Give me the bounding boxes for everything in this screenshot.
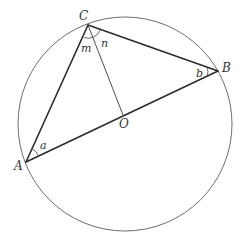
geometry-figure: C B A O a b m n <box>0 0 243 243</box>
angle-label-n: n <box>101 37 108 50</box>
angle-arc-b <box>207 67 208 77</box>
angle-label-m: m <box>81 42 91 55</box>
point-label-B: B <box>221 61 231 75</box>
angle-label-b: b <box>196 67 203 80</box>
angle-arc-a <box>32 149 39 157</box>
point-label-C: C <box>79 9 88 23</box>
angle-label-a: a <box>40 139 47 152</box>
point-label-A: A <box>13 159 23 173</box>
point-label-O: O <box>119 117 129 131</box>
segment-AC <box>26 25 88 162</box>
